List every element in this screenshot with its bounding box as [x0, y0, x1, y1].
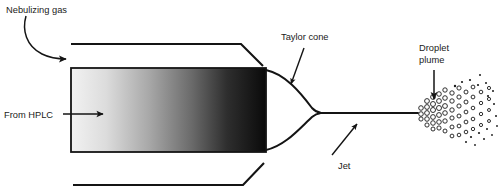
droplet: [431, 108, 436, 113]
droplet-small: [477, 84, 479, 86]
droplet: [479, 123, 482, 126]
droplet: [431, 121, 436, 126]
droplet: [464, 90, 468, 94]
droplet: [487, 97, 490, 100]
nebulizer-wall-top: [71, 44, 263, 66]
droplet: [431, 127, 435, 131]
droplet: [431, 102, 436, 107]
droplet: [419, 112, 424, 117]
droplet-small: [486, 128, 488, 130]
capillary-body: [71, 68, 266, 152]
droplet: [443, 129, 447, 133]
label-from-hplc: From HPLC: [4, 110, 53, 120]
droplet-small: [478, 132, 480, 134]
taylor-cone-leader-arrow: [291, 48, 304, 84]
droplet-plume-open-circles: [419, 85, 491, 138]
droplet: [443, 111, 448, 116]
droplet-small: [485, 82, 487, 84]
droplet: [437, 113, 442, 118]
droplet-small: [469, 79, 471, 81]
droplet: [471, 127, 474, 130]
droplet: [450, 108, 454, 112]
label-jet: Jet: [338, 161, 351, 171]
droplet: [443, 104, 448, 109]
nebulizing-gas-leader-arrow: [25, 16, 66, 59]
droplet: [443, 88, 447, 92]
droplet: [488, 109, 491, 112]
droplet: [457, 95, 461, 99]
droplet: [487, 86, 490, 89]
droplet: [479, 112, 482, 115]
esi-diagram-canvas: Nebulizing gas From HPLC Taylor cone Jet…: [0, 0, 500, 191]
droplet: [464, 100, 468, 104]
droplet-small: [474, 144, 476, 146]
droplet: [471, 106, 475, 110]
droplet: [471, 95, 475, 99]
esi-diagram: Nebulizing gas From HPLC Taylor cone Jet…: [0, 0, 500, 191]
droplet-small: [461, 81, 463, 83]
droplet: [450, 91, 454, 95]
droplet: [437, 99, 442, 104]
label-droplet-plume-line1: Droplet: [419, 43, 449, 53]
droplet-small: [495, 115, 497, 117]
droplet: [437, 92, 442, 97]
droplet-plume: [419, 74, 498, 146]
droplet-small: [470, 136, 472, 138]
taylor-cone-lower-edge: [266, 113, 320, 150]
droplet: [419, 117, 423, 121]
droplet: [425, 123, 429, 127]
droplet: [479, 101, 482, 104]
droplet-small: [465, 141, 467, 143]
droplet: [457, 104, 461, 108]
droplet: [431, 115, 436, 120]
droplet: [425, 99, 430, 104]
droplet: [443, 96, 448, 101]
droplet: [488, 120, 491, 123]
label-droplet-plume-line2: plume: [419, 55, 444, 65]
jet-leader-arrow: [332, 124, 357, 155]
droplet: [419, 106, 424, 111]
label-nebulizing-gas: Nebulizing gas: [6, 5, 67, 15]
droplet-small: [493, 103, 495, 105]
droplet: [479, 90, 483, 94]
droplet: [437, 126, 441, 130]
droplet-small: [487, 95, 489, 97]
droplet: [443, 119, 447, 123]
droplet-small: [492, 90, 494, 92]
droplet: [464, 130, 468, 134]
droplet: [425, 117, 430, 122]
droplet: [425, 105, 430, 110]
droplet: [457, 114, 461, 118]
droplet: [457, 86, 461, 90]
droplet: [464, 110, 468, 114]
droplet: [457, 133, 461, 137]
droplet-small: [496, 125, 498, 127]
taylor-cone-upper-edge: [266, 70, 320, 113]
droplet: [450, 116, 454, 120]
droplet: [425, 111, 430, 116]
droplet-small: [491, 134, 493, 136]
droplet-small: [483, 138, 485, 140]
droplet: [471, 85, 475, 89]
droplet: [437, 106, 442, 111]
droplet: [471, 117, 475, 121]
droplet-small: [479, 74, 481, 76]
droplet: [450, 134, 454, 138]
droplet: [464, 120, 468, 124]
droplet: [450, 125, 454, 129]
droplet: [450, 99, 454, 103]
droplet: [457, 124, 461, 128]
label-taylor-cone: Taylor cone: [281, 32, 329, 42]
nebulizer-wall-bottom: [73, 163, 264, 185]
droplet-small: [454, 85, 456, 87]
droplet: [437, 120, 442, 125]
